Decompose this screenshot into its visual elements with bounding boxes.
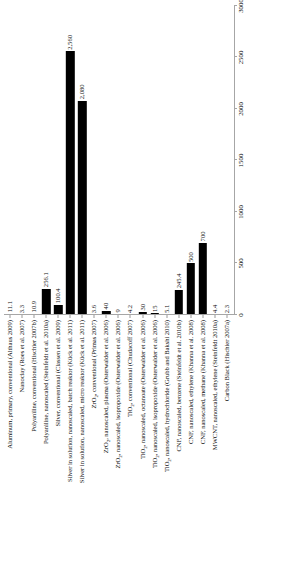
category-tick-mark — [58, 315, 59, 318]
value-axis-ticks: 050010001500200025003000 — [234, 6, 256, 315]
category-tick-mark — [34, 315, 35, 318]
bar-chart-figure: Aluminum, primary, conventional (Althaus… — [0, 0, 302, 566]
axis-tick-label: 2000 — [238, 102, 245, 116]
category-label: CNF, nanoscaled, benzene (Steinfeldt et … — [175, 320, 182, 452]
category-tick-mark — [214, 315, 215, 318]
category-label: MWCNT, nanoscaled, ethylene (Steinfeldt … — [212, 320, 219, 450]
category-label: ZrO2, conventional (Primas 2007) — [91, 320, 98, 408]
category-label: Carbon Black (Hischier 2007a) — [224, 320, 231, 401]
category-tick-mark — [142, 315, 143, 318]
category-label: CNF, nanoscaled, ethylene (Khanna et al.… — [187, 320, 194, 444]
category-tick-mark — [118, 315, 119, 318]
category-label: TiO2, conventional (Chudacoff 2007) — [127, 320, 134, 417]
plot-area: Aluminum, primary, conventional (Althaus… — [0, 0, 302, 566]
category-tick-mark — [202, 315, 203, 318]
category-label: CNF, nanoscaled, methane (Khanna et al. … — [199, 320, 206, 444]
category-tick-mark — [70, 315, 71, 318]
category-label: Nanoclay (Roes et al. 2007) — [19, 320, 26, 392]
axis-tick-label: 1000 — [238, 205, 245, 219]
category-label: Polyaniline, conventional (Hischier 2007… — [31, 320, 38, 432]
category-label: Silver in solution, nanoscaled, micro re… — [79, 320, 86, 483]
category-label: ZrO2, nanoscaled, plasma (Osterwalder et… — [103, 320, 110, 453]
category-tick-mark — [166, 315, 167, 318]
category-tick-mark — [130, 315, 131, 318]
axis-tick-label: 500 — [238, 258, 245, 268]
category-tick-mark — [46, 315, 47, 318]
category-tick-mark — [154, 315, 155, 318]
category-tick-mark — [190, 315, 191, 318]
category-tick-mark — [178, 315, 179, 318]
category-tick-mark — [94, 315, 95, 318]
category-label: TiO2, nanoscaled, isopropoxide (Osterwal… — [151, 320, 158, 468]
category-label: Silver, conventional (Classen et al. 200… — [55, 320, 62, 427]
category-label: Aluminum, primary, conventional (Althaus… — [7, 320, 14, 449]
axis-tick-label: 3000 — [238, 0, 245, 13]
category-label: TiO2, nanoscaled, hydrochloride (Grubb a… — [163, 320, 170, 472]
chart-figure-viewport: Aluminum, primary, conventional (Althaus… — [0, 0, 302, 566]
category-label: Polyaniline, nanoscaled (Steinfeldt et a… — [43, 320, 50, 444]
category-label: Silver in solution, nanoscaled, batch re… — [67, 320, 74, 482]
category-tick-mark — [82, 315, 83, 318]
axis-tick-label: 0 — [238, 313, 245, 316]
axis-tick-label: 1500 — [238, 154, 245, 168]
category-label: ZrO2, nanoscaled, isopropoxide (Osterwal… — [115, 320, 122, 469]
category-tick-mark — [10, 315, 11, 318]
value-axis-line — [4, 6, 234, 315]
category-tick-mark — [226, 315, 227, 318]
category-tick-mark — [106, 315, 107, 318]
axis-tick-label: 2500 — [238, 51, 245, 65]
category-tick-mark — [22, 315, 23, 318]
category-label: TiO2, nanoscaled, octanoate (Osterwalder… — [139, 320, 146, 459]
